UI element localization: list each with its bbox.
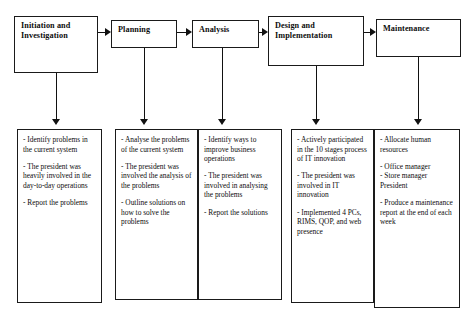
arrow-right-icon: [262, 28, 268, 36]
detail-box-analysis[interactable]: - Identify ways to improve business oper…: [198, 129, 282, 300]
drop-connector-line-2: [144, 48, 145, 121]
flowchart-canvas: Initiation and Investigation Planning An…: [0, 0, 472, 319]
detail-item: - Implemented 4 PCs, RIMS, QOP, and web …: [297, 208, 369, 237]
detail-item: - Identify problems in the current syste…: [23, 135, 97, 154]
detail-item: - Identify ways to improve business oper…: [204, 135, 277, 164]
detail-item: - Office manager - Store manager Preside…: [380, 162, 455, 191]
drop-connector-line-1: [56, 73, 57, 121]
drop-connector-line-3: [222, 48, 223, 121]
stage-label: Initiation and Investigation: [15, 17, 97, 41]
detail-item: - Outline solutions on how to solve the …: [121, 198, 193, 227]
arrow-down-icon: [218, 119, 226, 125]
detail-list: - Actively participated in the 10 stages…: [292, 130, 373, 236]
detail-list: - Allocate human resources - Office mana…: [375, 130, 459, 227]
detail-item: - Actively participated in the 10 stages…: [297, 135, 369, 164]
arrow-right-icon: [370, 28, 376, 36]
stage-label: Maintenance: [377, 20, 430, 34]
detail-list: - Identify problems in the current syste…: [18, 130, 101, 208]
stage-box-initiation-and-investigation[interactable]: Initiation and Investigation: [14, 16, 98, 73]
arrow-down-icon: [312, 119, 320, 125]
arrow-right-icon: [186, 28, 192, 36]
arrow-down-icon: [52, 119, 60, 125]
arrow-down-icon: [414, 119, 422, 125]
drop-connector-line-5: [418, 57, 419, 121]
detail-item: - The president was involved in IT innov…: [297, 171, 369, 200]
stage-label: Analysis: [193, 21, 229, 35]
detail-box-maintenance[interactable]: - Allocate human resources - Office mana…: [374, 129, 460, 308]
detail-item: - The president was heavily involved in …: [23, 162, 97, 191]
detail-item: - Report the solutions: [204, 208, 277, 218]
detail-box-design-and-implementation[interactable]: - Actively participated in the 10 stages…: [291, 129, 374, 303]
arrow-down-icon: [140, 119, 148, 125]
drop-connector-line-4: [316, 66, 317, 121]
detail-item: - Allocate human resources: [380, 135, 455, 154]
detail-list: - Analyse the problems of the current sy…: [116, 130, 197, 227]
stage-label: Design and Implementation: [269, 17, 363, 41]
flow-connector-line-2: [177, 32, 186, 33]
arrow-right-icon: [105, 28, 111, 36]
detail-box-initiation-and-investigation[interactable]: - Identify problems in the current syste…: [17, 129, 102, 303]
detail-box-planning[interactable]: - Analyse the problems of the current sy…: [115, 129, 198, 300]
detail-item: - The president was involved the analysi…: [121, 162, 193, 191]
detail-item: - Produce a maintenance report at the en…: [380, 198, 455, 227]
stage-box-analysis[interactable]: Analysis: [192, 20, 259, 48]
stage-label: Planning: [112, 21, 150, 35]
stage-box-planning[interactable]: Planning: [111, 20, 177, 48]
detail-list: - Identify ways to improve business oper…: [199, 130, 281, 217]
detail-item: - Report the problems: [23, 198, 97, 208]
detail-item: - Analyse the problems of the current sy…: [121, 135, 193, 154]
stage-box-design-and-implementation[interactable]: Design and Implementation: [268, 16, 364, 66]
detail-item: - The president was involved in analysin…: [204, 171, 277, 200]
stage-box-maintenance[interactable]: Maintenance: [376, 19, 461, 57]
